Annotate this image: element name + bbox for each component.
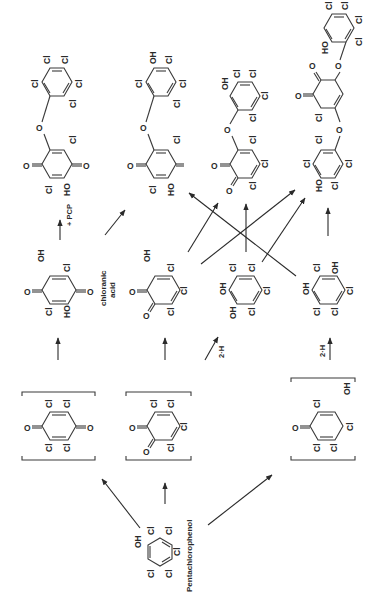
svg-text:Cl: Cl [172,136,182,145]
svg-text:Cl: Cl [179,287,189,296]
svg-text:Cl: Cl [62,264,72,273]
svg-text:Cl: Cl [68,100,78,109]
svg-text:Cl: Cl [247,264,257,273]
cyclohexadienone-intermediate: O Cl Cl Cl Cl OH [291,378,355,460]
svg-text:HO: HO [62,305,72,318]
svg-text:Cl: Cl [146,570,156,579]
dimer-2-structure: OH Cl Cl Cl Cl O O Cl Cl HO [127,51,188,196]
svg-text:O: O [36,123,43,133]
svg-text:O: O [24,287,31,297]
svg-text:HO: HO [62,183,72,196]
p-chloranil-intermediate: O O Cl Cl Cl Cl [22,392,95,460]
svg-text:OH: OH [228,306,238,319]
svg-text:OH: OH [36,249,46,262]
svg-text:Cl: Cl [248,136,258,145]
svg-text:Cl: Cl [68,136,78,145]
svg-text:Cl: Cl [172,100,182,109]
svg-text:Cl: Cl [330,182,340,191]
svg-text:HO: HO [320,41,330,54]
svg-text:Cl: Cl [340,2,350,11]
svg-text:Cl: Cl [166,444,176,453]
svg-text:Cl: Cl [44,444,54,453]
svg-text:Cl: Cl [302,160,312,169]
o-chloranil-intermediate: O O Cl Cl Cl Cl [126,392,191,460]
svg-text:Cl: Cl [30,80,40,89]
dimer-1-structure: Cl Cl Cl Cl Cl O O O Cl Cl HO [23,56,90,197]
svg-text:O: O [129,287,136,297]
svg-text:Cl: Cl [247,308,257,317]
svg-text:O: O [309,61,316,71]
svg-text:HO: HO [314,179,324,192]
svg-text:OH: OH [330,261,340,274]
svg-text:Cl: Cl [146,527,156,536]
svg-text:Cl: Cl [74,80,84,89]
svg-text:O: O [336,125,343,135]
svg-text:O: O [295,91,302,101]
svg-text:Cl: Cl [248,182,258,191]
svg-text:Cl: Cl [312,400,322,409]
svg-text:O: O [143,311,150,321]
hydroxy-o-quinone-structure: O O Cl Cl Cl OH [129,249,189,321]
svg-text:OH: OH [301,282,311,295]
svg-text:Cl: Cl [314,114,324,123]
svg-text:Cl: Cl [232,70,242,79]
svg-text:O: O [335,61,342,71]
svg-text:Cl: Cl [44,308,54,317]
svg-text:Cl: Cl [42,56,52,65]
svg-text:O: O [129,423,136,433]
svg-text:Cl: Cl [312,444,322,453]
svg-text:Cl: Cl [134,80,144,89]
svg-text:Cl: Cl [248,114,258,123]
svg-text:Cl: Cl [178,80,188,89]
svg-text:O: O [23,161,30,171]
svg-text:Cl: Cl [149,400,159,409]
svg-text:Cl: Cl [354,38,364,47]
dimer-3-structure: OH Cl Cl Cl Cl O O O Cl Cl Cl [211,70,270,197]
svg-text:Cl: Cl [248,70,258,79]
tetrachlorocatechol-structure: Cl Cl Cl Cl OH OH [218,264,272,320]
svg-text:OH: OH [142,249,152,262]
svg-text:OH: OH [220,77,230,90]
svg-text:Cl: Cl [345,423,355,432]
svg-text:O: O [143,447,150,457]
svg-text:Cl: Cl [62,400,72,409]
svg-text:Cl: Cl [262,287,272,296]
svg-text:O: O [127,161,134,171]
svg-text:Cl: Cl [62,444,72,453]
svg-text:O: O [87,423,94,433]
svg-text:Cl: Cl [172,548,182,557]
svg-text:Cl: Cl [164,527,174,536]
svg-text:Cl: Cl [344,160,354,169]
svg-text:Cl: Cl [228,264,238,273]
svg-text:O: O [140,123,147,133]
svg-text:Cl: Cl [312,264,322,273]
svg-text:Cl: Cl [166,264,176,273]
svg-text:Cl: Cl [44,186,54,195]
svg-text:Cl: Cl [260,160,270,169]
svg-text:O: O [83,161,90,171]
chloranilic-acid-structure: O O Cl OH Cl HO chloranic acid [24,249,117,318]
svg-text:Cl: Cl [345,287,355,296]
svg-text:Cl: Cl [260,92,270,101]
svg-text:Cl: Cl [329,444,339,453]
svg-text:OH: OH [148,51,158,64]
svg-text:O: O [87,287,94,297]
pentachlorophenol-structure: OH Cl Cl Cl Cl Cl Pentachlorophenol [133,520,194,592]
svg-text:Cl: Cl [148,186,158,195]
svg-text:Cl: Cl [164,570,174,579]
svg-text:Cl: Cl [330,308,340,317]
svg-text:Cl: Cl [314,136,324,145]
svg-text:Cl: Cl [166,400,176,409]
svg-text:Cl: Cl [354,16,364,25]
svg-text:HO: HO [166,183,176,196]
tetrachloro-dihydroxybenzene-structure: Cl OH Cl Cl Cl OH [301,261,355,316]
svg-text:Cl: Cl [60,56,70,65]
chloranilic-acid-label-2: acid [108,282,117,298]
svg-text:Cl: Cl [179,423,189,432]
reaction-scheme: OH Cl Cl Cl Cl Cl Pentachlorophenol O O … [0,0,371,609]
svg-text:Cl: Cl [312,308,322,317]
svg-text:O: O [211,161,218,171]
svg-text:OH: OH [342,382,352,395]
svg-text:OH: OH [133,535,143,548]
svg-text:O: O [226,186,233,196]
